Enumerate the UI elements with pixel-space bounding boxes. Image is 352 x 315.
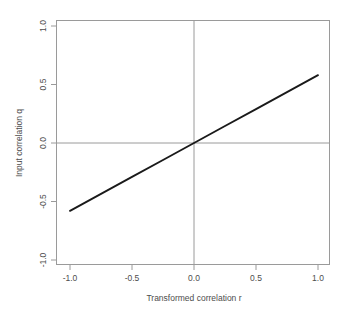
y-tick-label: 1.0 [38, 20, 48, 32]
x-tick-label: -0.5 [125, 273, 140, 283]
x-tick-label: 1.0 [312, 273, 324, 283]
y-tick-label: -1.0 [38, 252, 48, 267]
y-axis-title: Input correlation q [14, 109, 24, 177]
y-tick-label: 0.0 [38, 137, 48, 149]
x-axis-title: Transformed correlation r [146, 293, 241, 303]
x-tick-label: 0.0 [188, 273, 200, 283]
y-tick-label: -0.5 [38, 194, 48, 209]
figure-background [0, 0, 352, 315]
scatter-line-plot: -1.0 -0.5 0.0 0.5 1.0 Transformed correl… [0, 0, 352, 315]
x-tick-label: 0.5 [250, 273, 262, 283]
y-tick-label: 0.5 [38, 78, 48, 90]
chart-figure: -1.0 -0.5 0.0 0.5 1.0 Transformed correl… [0, 0, 352, 315]
x-tick-label: -1.0 [63, 273, 78, 283]
